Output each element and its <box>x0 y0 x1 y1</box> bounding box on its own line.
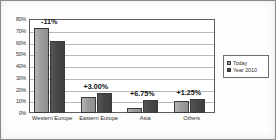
legend-label: Today <box>233 60 247 66</box>
y-axis-tick-label: 20% <box>16 87 26 93</box>
y-axis-tick-label: 30% <box>16 75 26 81</box>
y-axis-tick-label: 70% <box>16 28 26 34</box>
bar-value-annotation: +6.75% <box>130 89 155 98</box>
legend-entry: Year 2010 <box>227 67 266 73</box>
bar-today <box>174 101 189 113</box>
legend-swatch-icon <box>227 61 231 65</box>
bar-today <box>81 97 96 113</box>
x-axis-tick-label: Asia <box>140 115 151 121</box>
bar-group <box>169 19 216 113</box>
bar-series-layer: -11%+3.00%+6.75%+1.25% <box>29 19 215 113</box>
legend-swatch-icon <box>227 68 231 72</box>
y-axis-tick-label: 10% <box>16 98 26 104</box>
y-axis-tick-label: 50% <box>16 51 26 57</box>
bar-year-2010 <box>190 99 205 113</box>
y-axis: 80%70%60%50%40%30%20%10%0% <box>3 19 28 113</box>
y-axis-tick-label: 80% <box>16 16 26 22</box>
bar-group <box>122 19 169 113</box>
bar-year-2010 <box>143 100 158 114</box>
bar-year-2010 <box>97 93 112 113</box>
bar-value-annotation: +3.00% <box>83 82 108 91</box>
bar-group <box>76 19 123 113</box>
x-axis: Western EuropeEastern EuropeAsiaOthers <box>29 115 215 127</box>
chart-legend: TodayYear 2010 <box>223 55 269 78</box>
y-axis-tick-label: 40% <box>16 63 26 69</box>
bar-group <box>29 19 76 113</box>
bar-year-2010 <box>50 41 65 113</box>
bar-today <box>34 28 49 113</box>
bar-value-annotation: +1.25% <box>176 88 201 97</box>
legend-label: Year 2010 <box>233 67 257 73</box>
bar-value-annotation: -11% <box>41 17 57 26</box>
legend-entry: Today <box>227 60 266 66</box>
y-axis-tick-label: 0% <box>19 110 26 116</box>
x-axis-tick-label: Western Europe <box>32 115 72 121</box>
bar-today <box>127 108 142 113</box>
chart-figure: 80%70%60%50%40%30%20%10%0% -11%+3.00%+6.… <box>0 0 276 140</box>
x-axis-tick-label: Others <box>183 115 200 121</box>
x-axis-tick-label: Eastern Europe <box>79 115 118 121</box>
y-axis-tick-label: 60% <box>16 40 26 46</box>
